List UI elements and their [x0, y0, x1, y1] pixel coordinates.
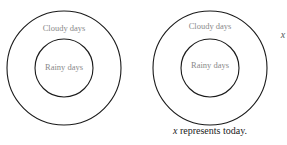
caption: x represents today. [172, 125, 247, 136]
rainy-days-label: Rainy days [45, 62, 83, 72]
rainy-days-label: Rainy days [191, 60, 229, 70]
cloudy-days-label: Cloudy days [189, 21, 232, 31]
diagram-right: Cloudy days Rainy days x [153, 11, 286, 125]
cloudy-days-label: Cloudy days [43, 23, 86, 33]
venn-diagrams: Cloudy days Rainy days Cloudy days Rainy… [0, 0, 287, 145]
today-point-label: x [280, 29, 286, 40]
diagram-left: Cloudy days Rainy days [7, 11, 121, 125]
caption-text: represents today. [177, 125, 247, 136]
